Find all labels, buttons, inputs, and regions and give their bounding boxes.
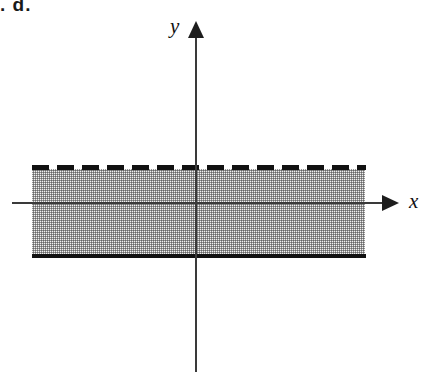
x-axis-line: [12, 202, 386, 204]
y-axis-line: [195, 30, 197, 372]
upper-boundary-dashed-line: [32, 165, 366, 170]
graph-figure: . d. y x: [0, 0, 433, 381]
y-axis-label: y: [170, 14, 179, 39]
x-axis-label: x: [409, 189, 418, 214]
shaded-region: [32, 169, 365, 257]
arrow-up-icon: [188, 21, 204, 38]
figure-caption: . d.: [0, 0, 31, 16]
arrow-right-icon: [382, 195, 399, 211]
lower-boundary-solid-line: [32, 254, 366, 258]
